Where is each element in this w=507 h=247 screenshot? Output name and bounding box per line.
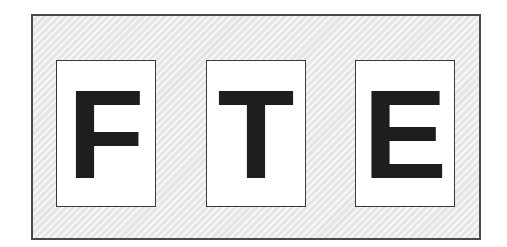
letter-panel: F T E bbox=[31, 14, 481, 240]
letter-e: E bbox=[363, 72, 447, 198]
letter-card-1: F bbox=[56, 60, 156, 207]
letter-card-3: E bbox=[355, 60, 455, 207]
letter-f: F bbox=[68, 72, 145, 198]
letter-card-2: T bbox=[206, 60, 306, 207]
letter-t: T bbox=[218, 72, 295, 198]
